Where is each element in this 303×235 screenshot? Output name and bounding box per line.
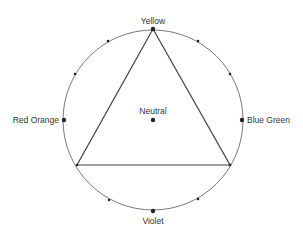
point-yellow [151,27,155,31]
triad-triangle [77,29,230,165]
major-hue-points [62,27,244,213]
label-violet: Violet [142,216,164,226]
minor-point-dot [197,198,200,201]
minor-point-dot [76,164,79,167]
label-red-orange: Red Orange [13,115,60,125]
label-neutral: Neutral [139,106,167,116]
label-blue-green: Blue Green [247,115,290,125]
color-triad-diagram: Yellow Red Orange Blue Green Violet Neut… [0,0,303,235]
diagram-canvas: Yellow Red Orange Blue Green Violet Neut… [0,0,303,235]
point-blue-green [240,118,244,122]
minor-point-dot [197,40,200,43]
minor-point-dot [108,199,111,202]
minor-point-dot [229,73,232,76]
minor-point-dot [229,164,232,167]
point-neutral [151,118,155,122]
label-yellow: Yellow [141,16,166,26]
minor-point-dot [107,40,110,43]
point-violet [151,209,155,213]
minor-point-dot [74,73,77,76]
point-red-orange [62,118,66,122]
